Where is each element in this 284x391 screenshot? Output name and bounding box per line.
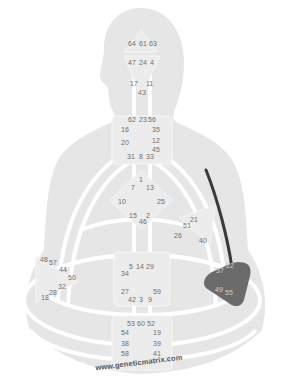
gate-60: 60 — [137, 320, 145, 328]
gate-2: 46 — [139, 218, 147, 226]
gate-31: 31 — [127, 153, 135, 161]
gate-21: 21 — [190, 216, 198, 224]
gate-57: 57 — [49, 259, 57, 267]
gate-43: 43 — [138, 89, 146, 97]
gate-12: 12 — [152, 137, 160, 145]
gate-63: 63 — [149, 40, 157, 48]
gate-7: 7 — [131, 184, 135, 192]
gate-18: 18 — [41, 294, 49, 302]
gate-58: 58 — [121, 350, 129, 358]
gate-35: 35 — [152, 126, 160, 134]
gate-49: 49 — [215, 286, 223, 294]
gate-61: 61 — [139, 40, 147, 48]
gate-42: 42 — [128, 296, 136, 304]
gate-17: 17 — [130, 80, 138, 88]
gate-4: 4 — [150, 59, 154, 67]
gate-47: 47 — [128, 59, 136, 67]
gate-51: 51 — [183, 222, 191, 230]
gate-37: 37 — [216, 267, 224, 275]
gate-20: 20 — [121, 139, 129, 147]
gate-13: 13 — [146, 184, 154, 192]
gate-32: 32 — [58, 283, 66, 291]
bodygraph: 64 61 63 47 24 4 17 11 43 62 23 56 16 35… — [0, 0, 284, 391]
gate-39: 39 — [153, 340, 161, 348]
gate-34: 34 — [121, 270, 129, 278]
gate-44: 44 — [59, 266, 67, 274]
gate-26: 26 — [174, 232, 182, 240]
gate-55: 55 — [225, 289, 233, 297]
gate-11: 11 — [146, 80, 153, 88]
gate-8: 8 — [139, 153, 143, 161]
gate-50: 50 — [68, 274, 76, 282]
gate-15: 15 — [129, 212, 137, 220]
gate-48: 48 — [40, 256, 48, 264]
gate-53: 53 — [127, 320, 135, 328]
gate-10: 10 — [118, 198, 126, 206]
gate-38: 38 — [121, 340, 129, 348]
gate-5: 5 — [129, 263, 133, 271]
gate-3: 3 — [139, 296, 143, 304]
gate-1: 1 — [139, 176, 143, 184]
gate-59: 59 — [153, 288, 161, 296]
gate-54: 54 — [121, 329, 129, 337]
gate-28: 28 — [49, 289, 57, 297]
gate-64: 64 — [128, 40, 136, 48]
gate-40: 40 — [199, 237, 207, 245]
gate-27: 27 — [121, 288, 129, 296]
gate-62: 62 — [128, 116, 136, 124]
gate-56: 56 — [148, 116, 156, 124]
gate-25: 25 — [157, 198, 165, 206]
gate-33: 33 — [146, 153, 154, 161]
gate-52: 52 — [147, 320, 155, 328]
gate-19: 19 — [153, 329, 161, 337]
gate-23: 23 — [139, 116, 147, 124]
gate-24: 24 — [139, 59, 147, 67]
gate-29: 29 — [146, 263, 154, 271]
gate-16: 16 — [121, 126, 129, 134]
gate-14: 14 — [136, 263, 144, 271]
gate-22: 22 — [226, 262, 234, 270]
gate-9: 9 — [148, 296, 152, 304]
